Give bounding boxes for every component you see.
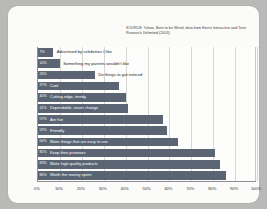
bar-category-label: Advertised by celebrities I like	[53, 48, 112, 57]
bar-value-label: 41%	[38, 107, 47, 111]
bar-category-label: Friendly	[47, 129, 65, 133]
bar-category-label: Worth the money spent	[47, 173, 92, 177]
x-tick-label: 100%	[251, 186, 261, 191]
bar-category-label: Keep their promises	[47, 151, 86, 155]
bar-value-label: 83%	[38, 162, 47, 166]
bar-value-label: 40%	[38, 95, 47, 99]
x-tick-label: 0%	[34, 186, 40, 191]
bar-value-label: 10%	[38, 62, 47, 66]
bar-category-label: Dependable, never change	[47, 106, 98, 110]
bar-category-label: Cutting edge, trendy	[47, 95, 86, 99]
x-tick-label: 40%	[121, 186, 129, 191]
bar-value-label: 86%	[38, 174, 47, 178]
chart-bar-row: 64%Make things that are easy to use	[38, 138, 255, 147]
x-tick-label: 50%	[142, 186, 150, 191]
chart-bar-row: 41%Dependable, never change	[38, 104, 255, 113]
chart-bar-row: 40%Cutting edge, trendy	[38, 93, 255, 102]
chart-bar-row: 86%Worth the money spent	[38, 171, 255, 180]
bar-category-label: Are fun	[47, 118, 63, 122]
bar-value-label: 57%	[38, 118, 47, 122]
x-tick-label: 80%	[208, 186, 216, 191]
x-tick-label: 70%	[186, 186, 194, 191]
chart-plot-area: 7%Advertised by celebrities I like10%Som…	[37, 47, 256, 181]
chart-bar-row: 83%Make high quality products	[38, 160, 255, 169]
bar-category-label: Make things that are easy to use	[47, 140, 108, 144]
chart-bar: 26%	[38, 71, 95, 80]
bar-value-label: 59%	[38, 129, 47, 133]
bar-category-label: Make high quality products	[47, 162, 98, 166]
chart-bar: 64%Make things that are easy to use	[38, 138, 178, 147]
chart-bar-row: 7%Advertised by celebrities I like	[38, 48, 255, 57]
chart-bar-row: 59%Friendly	[38, 126, 255, 135]
chart-bar: 10%	[38, 59, 60, 68]
bar-value-label: 26%	[38, 73, 47, 77]
chart-bar: 37%Cool	[38, 82, 119, 91]
bar-category-label: Do things to get noticed	[95, 71, 142, 80]
chart-bar: 81%Keep their promises	[38, 149, 215, 158]
bar-value-label: 7%	[38, 51, 45, 55]
chart-bar-rows: 7%Advertised by celebrities I like10%Som…	[38, 47, 255, 181]
bar-category-label: Cool	[47, 84, 59, 88]
chart-bar: 41%Dependable, never change	[38, 104, 128, 113]
chart-bar-row: 10%Something my parents wouldn't like	[38, 59, 255, 68]
gridline	[257, 47, 258, 181]
chart-bar: 57%Are fun	[38, 115, 163, 124]
x-tick-label: 20%	[77, 186, 85, 191]
x-tick-label: 90%	[230, 186, 238, 191]
chart-bar: 40%Cutting edge, trendy	[38, 93, 126, 102]
bar-value-label: 81%	[38, 151, 47, 155]
bar-category-label: Something my parents wouldn't like	[60, 59, 129, 68]
x-tick-label: 60%	[164, 186, 172, 191]
chart-bar-row: 57%Are fun	[38, 115, 255, 124]
chart-card: SOURCE: Yahoo, Born to be Wired, data fr…	[8, 6, 259, 203]
chart-x-axis: 0%10%20%30%40%50%60%70%80%90%100%	[37, 181, 256, 186]
chart-bar-row: 37%Cool	[38, 82, 255, 91]
chart-bar: 83%Make high quality products	[38, 160, 220, 169]
chart-bar-row: 81%Keep their promises	[38, 149, 255, 158]
chart-bar-row: 26%Do things to get noticed	[38, 71, 255, 80]
source-note: SOURCE: Yahoo, Born to be Wired, data fr…	[126, 26, 258, 36]
chart-bar: 86%Worth the money spent	[38, 171, 226, 180]
chart-plot-wrapper: 7%Advertised by celebrities I like10%Som…	[37, 47, 256, 181]
x-tick-label: 30%	[99, 186, 107, 191]
bar-value-label: 64%	[38, 140, 47, 144]
chart-bar: 59%Friendly	[38, 126, 167, 135]
x-tick-label: 10%	[55, 186, 63, 191]
bar-value-label: 37%	[38, 84, 47, 88]
screenshot-root: SOURCE: Yahoo, Born to be Wired, data fr…	[0, 0, 267, 209]
chart-bar: 7%	[38, 48, 53, 57]
